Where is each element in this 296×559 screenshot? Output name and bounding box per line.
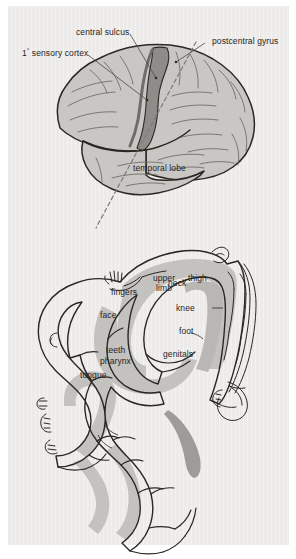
label-knee: knee: [176, 303, 195, 313]
figure-root: central sulcus 1° sensory cortex postcen…: [0, 0, 296, 559]
coronal-section-panel: upper limb fingers face teeth pharynx to…: [0, 230, 296, 559]
label-genitals: genitals: [163, 349, 193, 359]
lateral-brain-illustration: [0, 0, 296, 230]
label-foot: foot: [179, 326, 194, 336]
label-pharynx: pharynx: [100, 356, 131, 366]
label-central-sulcus: central sulcus: [76, 27, 129, 37]
foot-figure: [213, 382, 248, 420]
label-tongue: tongue: [80, 370, 107, 380]
label-neck: neck: [168, 278, 186, 288]
leader-dot-postcentral-gyrus: [175, 61, 178, 64]
label-postcentral-gyrus: postcentral gyrus: [212, 36, 278, 46]
label-primary-sensory-cortex: 1° sensory cortex: [22, 48, 88, 58]
label-face: face: [100, 310, 116, 320]
medial-grey-wedge: [164, 410, 201, 478]
label-primary-sensory-cortex-rest: sensory cortex: [29, 48, 88, 58]
label-temporal-lobe: temporal lobe: [133, 163, 186, 173]
label-teeth: teeth: [106, 345, 125, 355]
label-thigh: thigh: [188, 273, 207, 283]
label-fingers: fingers: [111, 287, 137, 297]
leader-dot-central-sulcus: [155, 77, 158, 80]
leader-dot-primary-sensory-cortex: [146, 99, 149, 102]
head-figure: [37, 333, 57, 454]
cortical-ribbon-band-inferior-2: [106, 444, 141, 540]
lateral-brain-panel: central sulcus 1° sensory cortex postcen…: [0, 0, 296, 230]
